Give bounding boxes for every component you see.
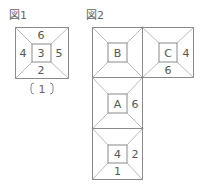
figure1-face-left: 4	[20, 48, 27, 59]
square-bottom-bottom: 1	[114, 166, 121, 177]
figure1-face-center: 3	[38, 48, 45, 59]
square-c-bottom: 6	[165, 65, 172, 76]
square-a-right: 6	[132, 98, 139, 109]
square-b-center: B	[114, 47, 122, 58]
square-a-center: A	[114, 98, 122, 109]
figure1-title: 図1	[9, 10, 27, 21]
figure1-face-top: 6	[38, 30, 45, 41]
square-c-center: C	[164, 47, 172, 58]
figure2-title: 図2	[86, 10, 104, 21]
figure1-face-bottom: 2	[38, 65, 45, 76]
figure1-caption: 1	[39, 84, 46, 95]
square-c-right: 4	[183, 47, 190, 58]
figure1-face-right: 5	[56, 48, 63, 59]
square-bottom-right: 2	[132, 149, 139, 160]
square-bottom-center: 4	[114, 149, 121, 160]
figure1-caption-text: 1	[39, 83, 46, 96]
cube-net-drawing	[0, 0, 201, 190]
